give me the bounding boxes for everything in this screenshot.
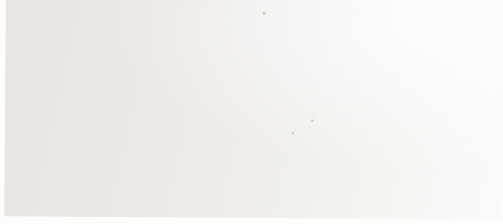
obesity-line-chart bbox=[0, 0, 503, 224]
scan-tilt-layer bbox=[0, 0, 503, 224]
scanned-chart-page bbox=[0, 0, 503, 224]
scan-speck bbox=[263, 12, 266, 15]
scan-speck bbox=[292, 132, 294, 134]
scan-speck bbox=[311, 119, 314, 121]
